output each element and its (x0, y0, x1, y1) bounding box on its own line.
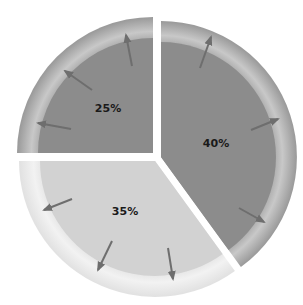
slice-label-25: 25% (95, 102, 121, 115)
pie-chart: 40% 35% 25% (0, 0, 303, 305)
slice-25: 25% (17, 17, 153, 153)
slice-label-40: 40% (203, 137, 229, 150)
slice-label-35: 35% (112, 205, 138, 218)
